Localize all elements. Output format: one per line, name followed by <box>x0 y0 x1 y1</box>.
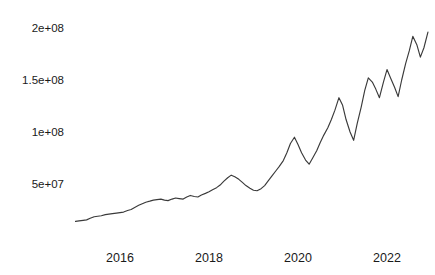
data-series-line <box>76 32 428 221</box>
plot-area <box>0 0 435 275</box>
line-chart: 5e+071e+081.5e+082e+08 2016201820202022 <box>0 0 435 275</box>
